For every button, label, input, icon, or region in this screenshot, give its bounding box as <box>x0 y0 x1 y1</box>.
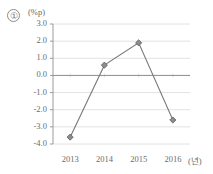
y-tick-label: -4.0 <box>17 138 47 148</box>
y-tick-label: 3.0 <box>17 18 47 28</box>
y-tick-label: -2.0 <box>17 104 47 114</box>
data-line-series <box>70 43 173 137</box>
y-tick-label: -1.0 <box>17 87 47 97</box>
data-point-marker <box>67 134 73 140</box>
data-point-marker <box>101 62 107 68</box>
tick-marks-group <box>50 24 173 144</box>
x-tick-label: 2016 <box>153 154 193 164</box>
y-tick-label: 2.0 <box>17 35 47 45</box>
gridlines-group <box>53 24 190 144</box>
y-tick-label: 0.0 <box>17 69 47 79</box>
chart-figure: ① (%p) (년) 3.02.01.00.0-1.0-2.0-3.0-4.0 … <box>0 0 213 174</box>
data-point-marker <box>170 117 176 123</box>
y-tick-label: -3.0 <box>17 121 47 131</box>
y-tick-label: 1.0 <box>17 52 47 62</box>
